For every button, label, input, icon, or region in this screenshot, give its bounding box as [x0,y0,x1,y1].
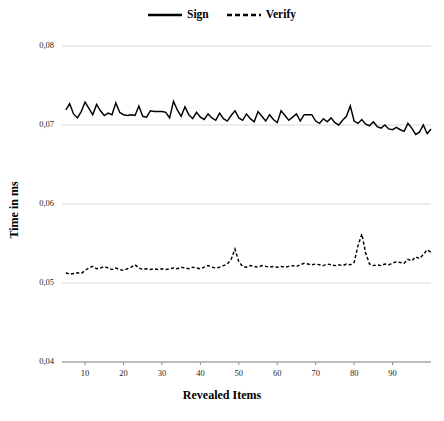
x-axis-ticklabel: 20 [109,368,139,378]
y-axis-title: Time in ms [7,181,22,238]
y-axis-ticklabel: 0,08 [14,40,54,50]
x-axis-title: Revealed Items [0,388,444,403]
x-axis-ticklabel: 30 [147,368,177,378]
x-axis-ticklabel: 80 [339,368,369,378]
x-axis-ticklabel: 10 [70,368,100,378]
x-axis-ticklabel: 40 [185,368,215,378]
x-axis-ticklabel: 70 [301,368,331,378]
x-axis-ticklabel: 60 [262,368,292,378]
legend-entry-sign: Sign [148,9,209,21]
y-axis-ticklabel: 0,06 [14,198,54,208]
legend-entry-verify: Verify [227,9,296,21]
x-axis-ticklabel: 50 [224,368,254,378]
x-axis-ticklabel: 90 [378,368,408,378]
line-chart: Sign Verify Time in ms Revealed Items 0,… [0,0,444,421]
legend-swatch-sign-icon [148,11,182,19]
legend-label-sign: Sign [187,9,209,21]
chart-legend: Sign Verify [0,9,444,21]
series-line-verify [66,234,431,274]
y-axis-ticklabel: 0,04 [14,356,54,366]
legend-swatch-verify-icon [227,11,261,19]
plot-area [0,0,444,421]
gridlines [62,46,431,362]
y-axis-ticklabel: 0,05 [14,277,54,287]
series-line-sign [66,101,431,134]
legend-label-verify: Verify [266,9,296,21]
y-axis-ticklabel: 0,07 [14,119,54,129]
